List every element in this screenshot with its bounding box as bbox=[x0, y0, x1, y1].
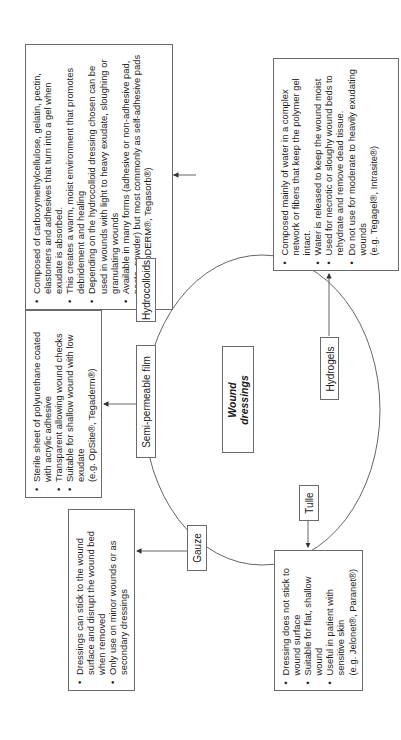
tulle-label: Tulle bbox=[304, 492, 315, 513]
gauze-details-list: Dressings can stick to the wound surface… bbox=[73, 515, 128, 685]
gauze-label: Gauze bbox=[192, 533, 203, 562]
detail-item: Only use on minor wounds or as secondary… bbox=[106, 515, 128, 685]
central-ellipse bbox=[144, 255, 380, 565]
hydrogels-label-box: Hydrogels bbox=[320, 337, 339, 400]
detail-item: This creates a warm, moist environment t… bbox=[64, 50, 86, 304]
detail-item: Suitable for shallow wound with low exud… bbox=[63, 316, 85, 492]
semi-film-details-list: Sterile sheet of polyurethane coated wit… bbox=[30, 316, 97, 492]
examples-text: (e.g. Jelonet®, Paranet®) bbox=[346, 556, 357, 685]
gauze-details-box: Dressings can stick to the wound surface… bbox=[68, 509, 135, 691]
center-title-line1: Wound bbox=[226, 348, 238, 451]
detail-item: Dressings can stick to the wound surface… bbox=[73, 515, 106, 685]
hydrogels-details-list: Composed mainly of water in a complex ne… bbox=[279, 64, 379, 265]
detail-item: Water is released to keep the wound mois… bbox=[312, 64, 323, 265]
tulle-details-list: Dressing does not stick to wound surface… bbox=[279, 556, 357, 685]
tulle-label-box: Tulle bbox=[299, 485, 319, 521]
semi-film-label-box: Semi-permeable film bbox=[136, 345, 156, 458]
hydrocolloids-label-box: Hydrocolloids bbox=[136, 258, 156, 322]
examples-text: (e.g. OpSite®, Tegaderm®) bbox=[85, 316, 96, 492]
hydrocolloids-details-list: Composed of carboxymethylcellulose, gela… bbox=[31, 50, 153, 304]
detail-item: Suitable for flat, shallow wound bbox=[301, 556, 323, 685]
examples-text: (e.g. Tegagel®, Intrasite®) bbox=[368, 64, 379, 265]
detail-item: Do not use for moderate to heavily exuda… bbox=[346, 64, 368, 265]
detail-item: Sterile sheet of polyurethane coated wit… bbox=[30, 316, 52, 492]
detail-item: Used for necrotic or sloughy wound beds … bbox=[323, 64, 345, 265]
gauze-label-box: Gauze bbox=[187, 525, 207, 571]
detail-item: Dressing does not stick to wound surface bbox=[279, 556, 301, 685]
tulle-details-box: Dressing does not stick to wound surface… bbox=[274, 550, 363, 691]
center-title-line2: dressings bbox=[238, 348, 250, 451]
hydrogels-details-box: Composed mainly of water in a complex ne… bbox=[273, 58, 399, 271]
detail-item: Depending on the hydrocolloid dressing c… bbox=[86, 50, 119, 304]
semi-film-details-box: Sterile sheet of polyurethane coated wit… bbox=[25, 310, 102, 498]
detail-item: Useful in patient with sensitive skin bbox=[323, 556, 345, 685]
hydrocolloids-label: Hydrocolloids bbox=[141, 260, 152, 320]
hydrogels-label: Hydrogels bbox=[324, 346, 335, 391]
center-title-box: Wound dressings bbox=[222, 346, 254, 453]
detail-item: Composed mainly of water in a complex ne… bbox=[279, 64, 312, 265]
detail-item: Transparent allowing wound checks bbox=[52, 316, 63, 492]
detail-item: Composed of carboxymethylcellulose, gela… bbox=[31, 50, 64, 304]
semi-film-label: Semi-permeable film bbox=[141, 356, 152, 448]
